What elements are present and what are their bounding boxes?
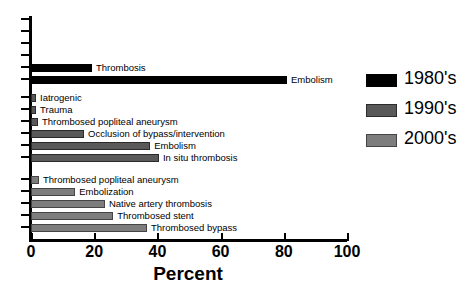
x-axis-line <box>29 239 347 242</box>
y-axis-line <box>29 16 32 242</box>
x-axis-tick <box>94 233 96 241</box>
x-axis-tick-label: 60 <box>201 243 241 261</box>
bar <box>31 200 105 208</box>
bar <box>31 94 36 102</box>
y-axis-tick <box>21 66 30 68</box>
x-axis-tick <box>347 233 349 241</box>
y-axis-tick <box>21 30 30 32</box>
bar <box>31 76 287 84</box>
x-axis-tick <box>157 233 159 241</box>
bar <box>31 154 159 162</box>
x-axis-tick-label: 0 <box>11 243 51 261</box>
bar <box>31 212 113 220</box>
bar <box>31 64 92 72</box>
bar-label: Trauma <box>40 105 72 115</box>
bar-label: Thrombosed stent <box>117 211 194 221</box>
y-axis-tick <box>21 202 30 204</box>
y-axis-tick <box>21 78 30 80</box>
legend-swatch <box>366 74 397 87</box>
bar-label: Occlusion of bypass/intervention <box>88 129 225 139</box>
bar-label: Embolization <box>79 187 133 197</box>
bar-label: Native artery thrombosis <box>109 199 212 209</box>
y-axis-tick <box>21 42 30 44</box>
y-axis-tick <box>21 226 30 228</box>
legend-label: 1980's <box>404 68 456 89</box>
legend-swatch <box>366 104 397 117</box>
bar-label: Iatrogenic <box>40 93 82 103</box>
bar <box>31 188 75 196</box>
x-axis-tick-label: 20 <box>74 243 114 261</box>
y-axis-tick <box>21 190 30 192</box>
y-axis-tick <box>21 18 30 20</box>
bar <box>31 130 84 138</box>
y-axis-tick <box>21 108 30 110</box>
y-axis-tick <box>21 54 30 56</box>
x-axis-tick-label: 100 <box>327 243 367 261</box>
y-axis-tick <box>21 96 30 98</box>
x-axis-tick-label: 80 <box>264 243 304 261</box>
y-axis-tick <box>21 120 30 122</box>
x-axis-tick <box>31 233 33 241</box>
y-axis-tick <box>21 214 30 216</box>
y-axis-tick <box>21 178 30 180</box>
bar <box>31 224 147 232</box>
bar <box>31 176 39 184</box>
bar-label: Thrombosed popliteal aneurysm <box>43 175 179 185</box>
legend-swatch <box>366 134 397 147</box>
y-axis-tick <box>21 132 30 134</box>
bar <box>31 106 36 114</box>
bar <box>31 142 150 150</box>
x-axis-tick-label: 40 <box>137 243 177 261</box>
bar <box>31 118 38 126</box>
legend-label: 1990's <box>404 98 456 119</box>
bar-chart-figure: 020406080100 ThrombosisEmbolismIatrogeni… <box>0 0 466 293</box>
bar-label: Thrombosed bypass <box>151 223 237 233</box>
bar-label: In situ thrombosis <box>163 153 237 163</box>
x-axis-title: Percent <box>29 263 347 285</box>
y-axis-tick <box>21 156 30 158</box>
bar-label: Thrombosed popliteal aneurysm <box>42 117 178 127</box>
x-axis-tick <box>284 233 286 241</box>
y-axis-tick <box>21 144 30 146</box>
x-axis-tick <box>221 233 223 241</box>
bar-label: Embolism <box>154 141 196 151</box>
bar-label: Embolism <box>291 75 333 85</box>
legend-label: 2000's <box>404 128 456 149</box>
bar-label: Thrombosis <box>96 63 146 73</box>
